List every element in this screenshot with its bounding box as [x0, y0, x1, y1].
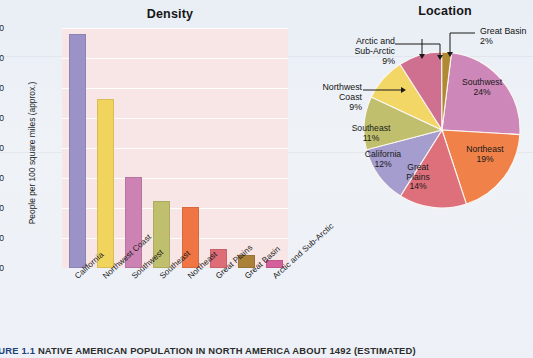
- y-tick-label: 150: [0, 173, 4, 183]
- pie-label-northwest-coast: Northwest Coast 9%: [290, 82, 362, 112]
- figure-number: FIGURE 1.1: [0, 345, 35, 356]
- y-tick-label: 50: [0, 233, 4, 243]
- gridline: [62, 28, 288, 29]
- pie-label-northwest-coast-pct: 9%: [290, 102, 362, 112]
- y-tick-label: 400: [0, 23, 4, 33]
- pie-label-great-basin-pct: 2%: [480, 36, 533, 46]
- y-tick-label: 200: [0, 143, 4, 153]
- pie-label-northwest-coast-l1: Northwest: [290, 82, 362, 92]
- pie-label-arctic-sub-arctic: Arctic and Sub-Arctic 9%: [320, 36, 395, 66]
- pie-label-arctic-pct: 9%: [320, 56, 395, 66]
- bar-chart-plot-area: [62, 28, 288, 268]
- y-tick-label: 0: [0, 263, 4, 273]
- pie-label-great-basin: Great Basin 2%: [480, 26, 533, 46]
- figure-page: Density People per 100 square miles (app…: [0, 0, 533, 358]
- bar: [69, 34, 86, 268]
- figure-caption: FIGURE 1.1 NATIVE AMERICAN POPULATION IN…: [0, 344, 533, 358]
- pie-label-southeast: Southeast 11%: [340, 124, 402, 143]
- pie-label-arctic-l2: Sub-Arctic: [320, 46, 395, 56]
- bar-chart-title: Density: [110, 7, 230, 21]
- figure-caption-text: NATIVE AMERICAN POPULATION IN NORTH AMER…: [38, 345, 416, 356]
- pie-label-northeast-pct: 19%: [442, 155, 528, 165]
- bar: [97, 99, 114, 268]
- pie-label-northwest-coast-l2: Coast: [290, 92, 362, 102]
- pie-label-northeast: Northeast 19%: [442, 145, 528, 164]
- pie-label-southwest: Southwest 24%: [437, 78, 527, 97]
- gridline: [62, 88, 288, 89]
- bar-chart-y-axis-label: People per 100 square miles (approx.): [27, 58, 37, 248]
- pie-label-great-basin-l1: Great Basin: [480, 26, 533, 36]
- pie-chart-panel: Location Southwest 24% Northeast 19%: [300, 0, 533, 358]
- gridline: [62, 58, 288, 59]
- pie-label-california-pct: 12%: [351, 160, 415, 170]
- pie-label-southwest-pct: 24%: [437, 88, 527, 98]
- y-tick-label: 250: [0, 113, 4, 123]
- pie-label-california: California 12%: [351, 150, 415, 169]
- pie-label-southeast-pct: 11%: [340, 134, 402, 144]
- y-tick-label: 300: [0, 83, 4, 93]
- y-tick-label: 350: [0, 53, 4, 63]
- bar-chart-panel: Density People per 100 square miles (app…: [0, 0, 300, 340]
- y-tick-label: 100: [0, 203, 4, 213]
- pie-label-arctic-l1: Arctic and: [320, 36, 395, 46]
- pie-label-great-plains-pct: 14%: [392, 182, 444, 192]
